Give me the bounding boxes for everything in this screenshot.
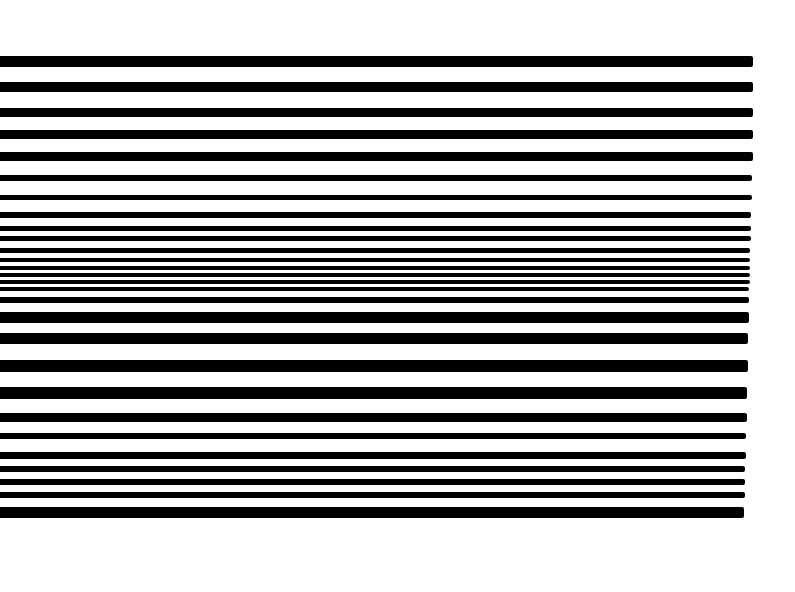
stripe-bar [0,466,745,472]
stripe-bar [0,56,753,67]
stripe-bar [0,360,748,372]
stripe-bar [0,452,746,459]
stripe-bar [0,108,753,117]
stripe-bar [0,387,747,399]
stripe-bar [0,258,750,262]
stripe-bar [0,266,750,270]
stripe-bar [0,312,749,323]
stripe-bar [0,333,748,344]
stripe-bar [0,297,749,303]
stripe-bar [0,280,750,284]
stripe-bar [0,433,746,439]
stripe-bar [0,130,753,139]
stripe-bar [0,195,752,200]
stripe-bar [0,82,753,92]
stripe-bar [0,236,751,241]
stripe-bar [0,287,749,291]
stripe-bar [0,175,752,181]
stripe-bar [0,226,751,231]
stripe-bar [0,212,751,218]
stripe-bar [0,507,744,518]
stripe-bar [0,479,745,485]
stripe-bar [0,413,747,422]
stripe-bar [0,273,750,277]
stripe-artwork [0,0,795,592]
stripe-bar [0,492,745,498]
stripe-bar [0,248,750,253]
stripe-bar [0,152,753,161]
